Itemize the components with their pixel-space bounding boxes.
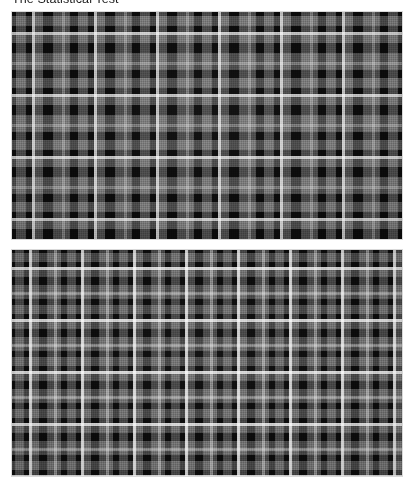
tartan-pattern-upper[interactable] (11, 11, 403, 240)
document-page: The Statistical Test (0, 0, 416, 489)
figure-caption: The Statistical Test (12, 0, 119, 6)
tartan-vignette-upper (12, 12, 402, 239)
tartan-vignette-lower (12, 250, 402, 476)
figure-stack (11, 11, 403, 477)
tartan-pattern-lower[interactable] (11, 249, 403, 477)
figure-caption-clip: The Statistical Test (12, 0, 404, 7)
